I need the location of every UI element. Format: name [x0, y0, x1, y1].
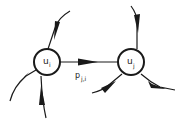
edge-label-subscript: j,i: [80, 75, 87, 83]
edge-incoming-ui-top: [48, 11, 70, 49]
arrowhead-icon: [54, 21, 60, 40]
edge-outgoing-uj-lowerright: [141, 74, 175, 90]
arrowhead-icon: [16, 72, 29, 88]
edge-ui-to-uj: [60, 59, 118, 66]
arrowhead-icon: [101, 81, 116, 93]
edge-incoming-uj-top: [131, 6, 140, 49]
node-label: u: [43, 56, 49, 66]
edge-label-main: p: [75, 71, 80, 80]
node-ui: u i: [34, 49, 60, 75]
arrowhead-icon: [78, 59, 98, 66]
node-label: u: [127, 56, 133, 66]
node-subscript: j: [132, 62, 135, 70]
graph-diagram: u i u j p j,i: [0, 0, 185, 123]
node-uj: u j: [118, 49, 144, 75]
edge-incoming-ui-bottom: [39, 76, 46, 118]
edge-label: p j,i: [75, 71, 87, 83]
edge-outgoing-ui-lowerleft: [10, 70, 36, 101]
edge-incoming-uj-lowerleft: [92, 74, 122, 93]
diagram-canvas: u i u j p j,i: [0, 0, 185, 123]
